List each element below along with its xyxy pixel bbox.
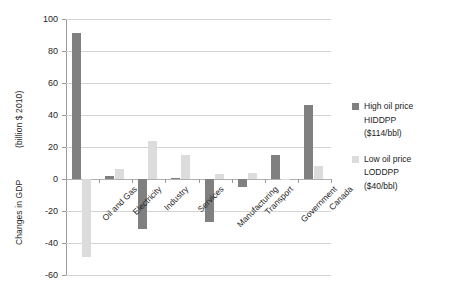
bar-high-oil-price [271, 155, 280, 179]
x-axis-tick [331, 179, 332, 183]
y-axis-tick-label: 100 [28, 14, 58, 24]
y-axis-tick-label: 0 [28, 174, 58, 184]
y-axis-tick-label: -20 [28, 206, 58, 216]
bar-high-oil-price [72, 33, 81, 179]
legend-text-line: HIDDPP [352, 114, 451, 128]
y-axis-tick-label: 60 [28, 78, 58, 88]
legend-text-line: High oil price [352, 100, 451, 114]
bar-low-oil-price [281, 179, 290, 180]
bar-high-oil-price [171, 178, 180, 179]
bar-low-oil-price [314, 166, 323, 179]
bar-group [298, 19, 331, 275]
y-axis-title: Changes in GDP [14, 180, 24, 245]
legend-entry: High oil priceHIDDPP($114/bbl) [352, 100, 451, 141]
bar-low-oil-price [115, 169, 124, 179]
y-axis-tick-label: 20 [28, 142, 58, 152]
bar-group [265, 19, 298, 275]
bar-high-oil-price [238, 179, 247, 187]
high-oil-price-swatch [352, 103, 359, 110]
legend-text-line: LODDPP [352, 166, 451, 180]
gdp-change-bar-chart: (billion $ 2010) Changes in GDP 10080604… [0, 0, 451, 294]
gridline--60 [66, 275, 331, 276]
bar-low-oil-price [148, 141, 157, 179]
chart-legend: High oil priceHIDDPP($114/bbl)Low oil pr… [352, 100, 451, 205]
y-axis-tick-label: -60 [28, 270, 58, 280]
bar-group [132, 19, 165, 275]
bar-group [99, 19, 132, 275]
bar-high-oil-price [105, 176, 114, 179]
y-axis-tick-label: -40 [28, 238, 58, 248]
legend-text-line: Low oil price [352, 153, 451, 167]
legend-text-line: ($40/bbl) [352, 180, 451, 194]
y-axis-tick-label: 40 [28, 110, 58, 120]
bar-low-oil-price [215, 174, 224, 179]
bar-low-oil-price [82, 179, 91, 257]
y-axis-tick-label: 80 [28, 46, 58, 56]
bar-high-oil-price [304, 105, 313, 179]
bar-group [232, 19, 265, 275]
bar-group [199, 19, 232, 275]
bar-series-container [66, 19, 331, 275]
bar-group [165, 19, 198, 275]
low-oil-price-swatch [352, 156, 359, 163]
bar-low-oil-price [181, 155, 190, 179]
y-axis-units-label: (billion $ 2010) [14, 91, 24, 148]
legend-entry: Low oil priceLODDPP($40/bbl) [352, 153, 451, 194]
legend-text-line: ($114/bbl) [352, 127, 451, 141]
bar-group [66, 19, 99, 275]
bar-low-oil-price [248, 173, 257, 179]
plot-area: 100806040200-20-40-60 Oil and GasElectri… [66, 19, 331, 275]
y-axis-tick [62, 275, 66, 276]
